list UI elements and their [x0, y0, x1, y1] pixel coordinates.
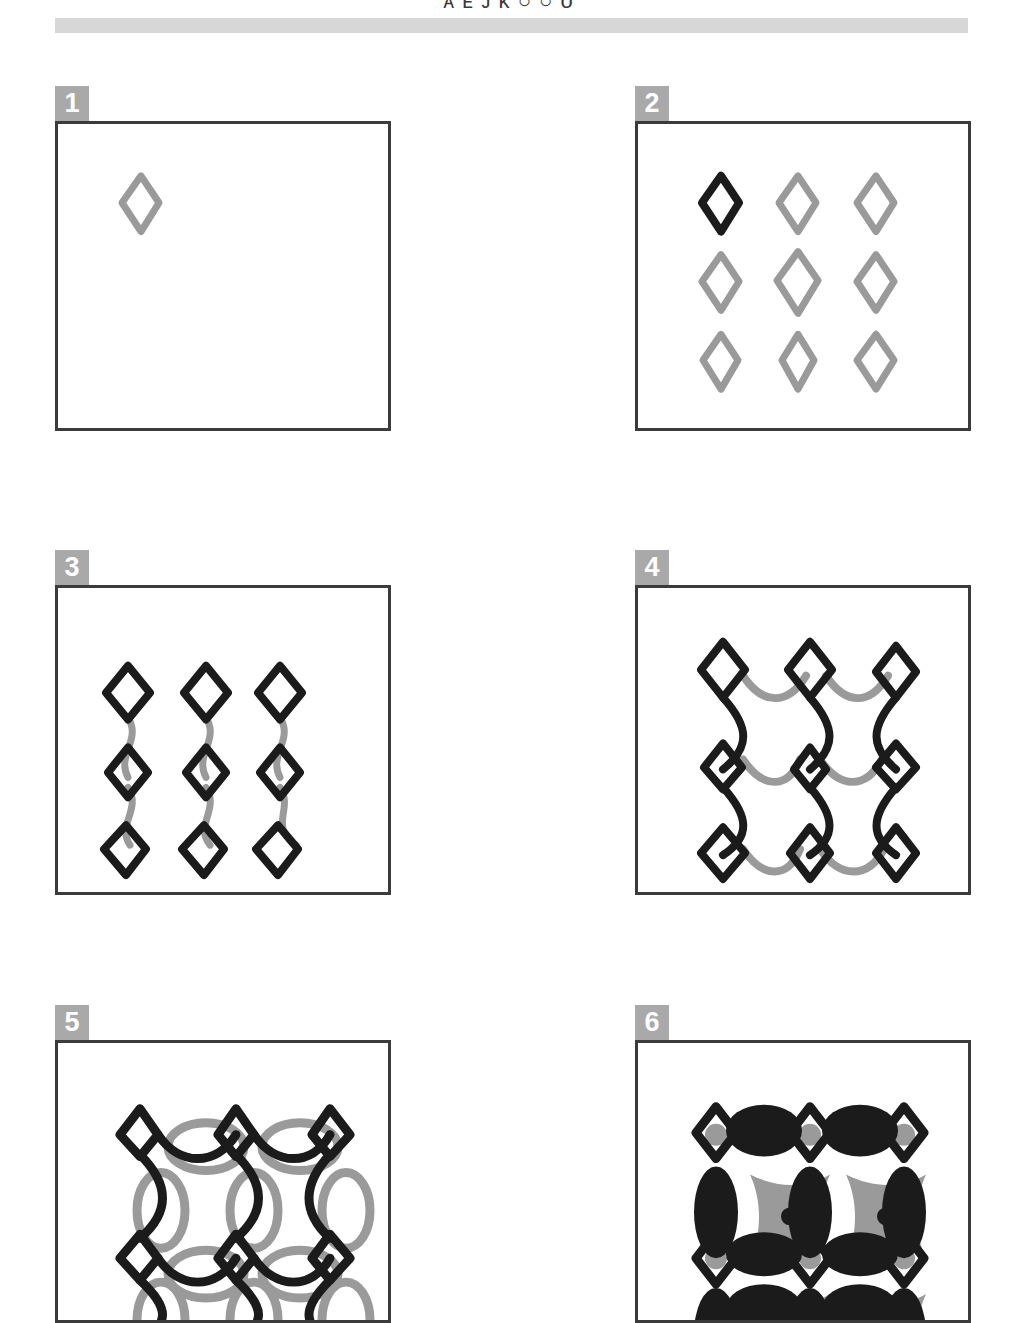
panel-canvas [55, 121, 391, 431]
panel-number-badge: 3 [55, 550, 89, 585]
figure-single-motif [58, 124, 388, 428]
figure-inked-solid-pattern [638, 1043, 968, 1320]
diamond-highlight [702, 176, 739, 232]
panel-canvas [635, 585, 971, 895]
panel-number-badge: 6 [635, 1005, 669, 1040]
panel-number-badge: 5 [55, 1005, 89, 1040]
panel-number-badge: 4 [635, 550, 669, 585]
figure-three-by-three-grid [638, 124, 968, 428]
page-title: ᴀ ᴇ ᴊ ᴋ ○ ○ ᴏ [0, 0, 1017, 14]
panel-canvas [55, 1040, 391, 1323]
diamond-outline [782, 334, 814, 389]
diamond-outline [702, 255, 739, 311]
figure-vertical-translation [58, 588, 388, 892]
diamond-outline [703, 334, 738, 389]
header-rule [55, 18, 968, 33]
diamond-outline [857, 334, 894, 389]
diamond-outline [779, 176, 816, 232]
diamond-outline [857, 255, 894, 311]
panel-number-badge: 2 [635, 86, 669, 121]
diamond-outline [777, 252, 818, 314]
diamond-outline [857, 176, 894, 232]
diamond-outline [122, 176, 159, 232]
figure-lattice-both-axes [638, 588, 968, 892]
panel-canvas [55, 585, 391, 895]
figure-interlaced-overlay [58, 1043, 388, 1320]
panel-canvas [635, 121, 971, 431]
panel-number-badge: 1 [55, 86, 89, 121]
panel-canvas [635, 1040, 971, 1323]
